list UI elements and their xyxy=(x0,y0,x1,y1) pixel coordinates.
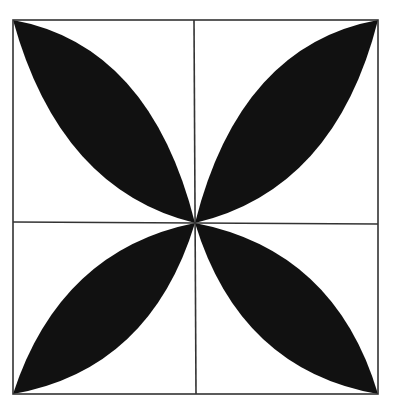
four-leaf-diagram xyxy=(0,0,396,412)
